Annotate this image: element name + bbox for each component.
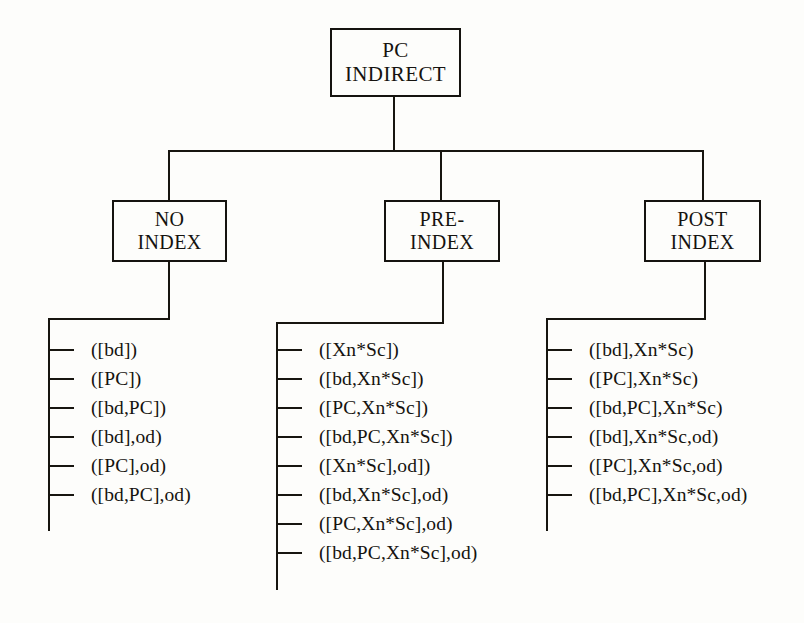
leaf-item: ([bd,PC,Xn*Sc])	[276, 422, 477, 451]
leaf-item: ([PC],Xn*Sc,od)	[546, 451, 747, 480]
node-pc-indirect: PC INDIRECT	[330, 28, 461, 97]
connector-root-stem	[393, 96, 395, 152]
leaf-tick-icon	[276, 349, 302, 351]
leaf-tick-icon	[48, 494, 74, 496]
leaf-label: ([bd,Xn*Sc],od)	[319, 484, 448, 506]
leaf-label: ([PC,Xn*Sc],od)	[319, 513, 453, 535]
leaf-label: ([bd],Xn*Sc)	[589, 339, 694, 361]
leaf-label: ([PC],Xn*Sc)	[589, 368, 698, 390]
leaf-item: ([PC,Xn*Sc],od)	[276, 509, 477, 538]
leaf-item: ([bd,Xn*Sc],od)	[276, 480, 477, 509]
node-pc-indirect-line2: INDIRECT	[345, 63, 446, 87]
leaf-item: ([bd],Xn*Sc,od)	[546, 422, 747, 451]
connector-pre-index-jog	[276, 322, 444, 324]
node-pre-index-line1: PRE-	[420, 208, 465, 231]
leaf-label: ([PC,Xn*Sc])	[319, 397, 428, 419]
leaf-tick-icon	[546, 436, 572, 438]
leaf-item: ([bd],Xn*Sc)	[546, 335, 747, 364]
leaf-item: ([PC],Xn*Sc)	[546, 364, 747, 393]
leaf-tick-icon	[48, 407, 74, 409]
leaf-item: ([bd,PC],Xn*Sc)	[546, 393, 747, 422]
leaf-list-post-index: ([bd],Xn*Sc)([PC],Xn*Sc)([bd,PC],Xn*Sc)(…	[546, 335, 747, 509]
leaf-item: ([bd,Xn*Sc])	[276, 364, 477, 393]
leaf-tick-icon	[276, 378, 302, 380]
leaf-item: ([bd],od)	[48, 422, 191, 451]
leaf-label: ([bd])	[91, 339, 137, 361]
leaf-tick-icon	[546, 349, 572, 351]
connector-pre-index-stem	[442, 262, 444, 322]
node-post-index-line1: POST	[677, 208, 728, 231]
leaf-item: ([bd,PC],od)	[48, 480, 191, 509]
leaf-label: ([bd],od)	[91, 426, 162, 448]
leaf-label: ([bd,PC],od)	[91, 484, 191, 506]
leaf-label: ([Xn*Sc])	[319, 339, 399, 361]
leaf-tick-icon	[276, 523, 302, 525]
leaf-label: ([bd],Xn*Sc,od)	[589, 426, 718, 448]
node-post-index-line2: INDEX	[670, 231, 734, 254]
leaf-list-no-index: ([bd])([PC])([bd,PC])([bd],od)([PC],od)(…	[48, 335, 191, 509]
leaf-tick-icon	[276, 436, 302, 438]
leaf-label: ([PC],od)	[91, 455, 166, 477]
leaf-item: ([PC])	[48, 364, 191, 393]
leaf-item: ([bd,PC])	[48, 393, 191, 422]
leaf-label: ([bd,PC,Xn*Sc],od)	[319, 542, 477, 564]
node-pre-index: PRE- INDEX	[384, 200, 500, 262]
leaf-label: ([PC])	[91, 368, 141, 390]
leaf-label: ([bd,PC],Xn*Sc,od)	[589, 484, 747, 506]
leaf-label: ([PC],Xn*Sc,od)	[589, 455, 723, 477]
leaf-list-pre-index: ([Xn*Sc])([bd,Xn*Sc])([PC,Xn*Sc])([bd,PC…	[276, 335, 477, 567]
connector-post-index-jog	[546, 318, 706, 320]
leaf-label: ([bd,PC])	[91, 397, 166, 419]
leaf-item: ([bd,PC],Xn*Sc,od)	[546, 480, 747, 509]
connector-drop-post-index	[702, 150, 704, 201]
leaf-item: ([Xn*Sc])	[276, 335, 477, 364]
leaf-tick-icon	[48, 378, 74, 380]
node-no-index: NO INDEX	[112, 200, 227, 262]
node-no-index-line2: INDEX	[137, 231, 201, 254]
connector-no-index-stem	[168, 262, 170, 318]
leaf-tick-icon	[276, 552, 302, 554]
connector-drop-no-index	[168, 150, 170, 201]
leaf-label: ([Xn*Sc],od])	[319, 455, 430, 477]
connector-drop-pre-index	[440, 150, 442, 201]
pc-indirect-tree-diagram: PC INDIRECT NO INDEX PRE- INDEX POST IND…	[0, 0, 804, 623]
leaf-item: ([PC],od)	[48, 451, 191, 480]
node-pre-index-line2: INDEX	[410, 231, 474, 254]
leaf-tick-icon	[276, 465, 302, 467]
leaf-tick-icon	[48, 349, 74, 351]
leaf-tick-icon	[276, 494, 302, 496]
leaf-label: ([bd,PC,Xn*Sc])	[319, 426, 453, 448]
leaf-tick-icon	[546, 378, 572, 380]
leaf-tick-icon	[546, 494, 572, 496]
connector-no-index-jog	[48, 318, 170, 320]
connector-distribution-bar	[168, 150, 704, 152]
connector-post-index-stem	[704, 262, 706, 318]
node-no-index-line1: NO	[155, 208, 185, 231]
node-pc-indirect-line1: PC	[382, 39, 409, 63]
leaf-tick-icon	[276, 407, 302, 409]
leaf-label: ([bd,Xn*Sc])	[319, 368, 424, 390]
node-post-index: POST INDEX	[644, 200, 761, 262]
leaf-item: ([bd,PC,Xn*Sc],od)	[276, 538, 477, 567]
leaf-label: ([bd,PC],Xn*Sc)	[589, 397, 723, 419]
leaf-tick-icon	[546, 465, 572, 467]
leaf-item: ([bd])	[48, 335, 191, 364]
leaf-item: ([Xn*Sc],od])	[276, 451, 477, 480]
leaf-tick-icon	[48, 436, 74, 438]
leaf-item: ([PC,Xn*Sc])	[276, 393, 477, 422]
leaf-tick-icon	[48, 465, 74, 467]
leaf-tick-icon	[546, 407, 572, 409]
